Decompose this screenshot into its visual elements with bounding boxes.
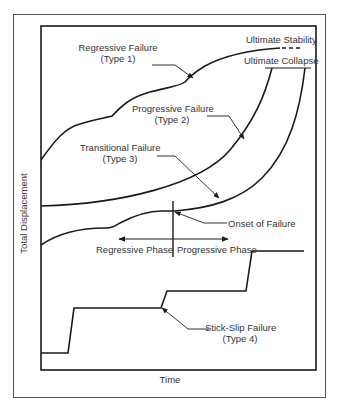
type1-title: Regressive Failure: [78, 42, 158, 53]
type2-label: Progressive Failure (Type 2): [132, 103, 212, 125]
type1-subtitle: (Type 1): [78, 53, 158, 64]
ultimate-collapse-label: Ultimate Collapse: [244, 55, 316, 66]
type3-label: Transitional Failure (Type 3): [80, 142, 160, 164]
ultimate-stability-label: Ultimate Stability: [246, 34, 316, 45]
type4-label: Stick-Slip Failure (Type 4): [205, 322, 275, 344]
onset-of-failure-label: Onset of Failure: [228, 218, 294, 229]
onset-leader: [175, 212, 227, 223]
type1-leader: [152, 65, 193, 78]
progressive-phase-label: Progressive Phase: [177, 244, 257, 255]
type4-subtitle: (Type 4): [205, 333, 275, 344]
plot-area: [41, 26, 316, 370]
y-axis-label: Total Displacement: [18, 169, 29, 259]
type3-subtitle: (Type 3): [80, 153, 160, 164]
type3-title: Transitional Failure: [80, 142, 160, 153]
type1-label: Regressive Failure (Type 1): [78, 42, 158, 64]
type2-leader: [207, 116, 244, 139]
type4-title: Stick-Slip Failure: [205, 322, 275, 333]
type4-leader: [162, 308, 209, 329]
type2-progressive-curve: [41, 68, 272, 206]
failure-types-diagram: Regressive Failure (Type 1) Ultimate Sta…: [0, 0, 341, 408]
regressive-phase-label: Regressive Phase: [96, 244, 170, 255]
type3-leader: [157, 156, 219, 198]
type2-subtitle: (Type 2): [132, 114, 212, 125]
x-axis-label: Time: [150, 374, 190, 385]
type2-title: Progressive Failure: [132, 103, 212, 114]
outer-frame: [14, 15, 326, 398]
